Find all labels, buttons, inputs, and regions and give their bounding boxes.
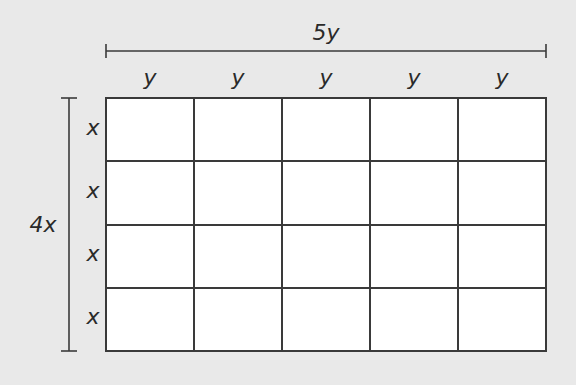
height-label: 4x	[29, 214, 56, 236]
column-label: y	[407, 67, 420, 89]
row-label: x	[86, 117, 99, 139]
row-label: x	[86, 306, 99, 328]
column-label: y	[319, 67, 332, 89]
row-label: x	[86, 180, 99, 202]
column-label: y	[495, 67, 508, 89]
column-label: y	[143, 67, 156, 89]
width-dimension-line	[106, 44, 546, 58]
height-dimension-line	[61, 98, 77, 351]
row-label: x	[86, 243, 99, 265]
width-label: 5y	[312, 22, 339, 44]
column-label: y	[231, 67, 244, 89]
